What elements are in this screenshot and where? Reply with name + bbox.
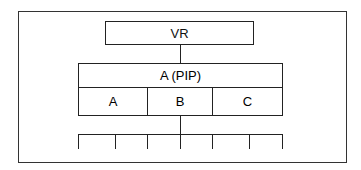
vr-label: VR [170, 26, 188, 41]
connector-pip-bus [180, 116, 181, 134]
part-a: A [79, 88, 148, 115]
pip-node: A (PIP) A B C [78, 63, 283, 116]
leaf-line [212, 134, 213, 149]
part-c: C [213, 88, 282, 115]
vr-node: VR [105, 21, 254, 45]
leaf-line [115, 134, 116, 149]
part-b: B [148, 88, 213, 115]
leaf-line [180, 134, 181, 149]
connector-vr-pip [180, 45, 181, 63]
pip-title: A (PIP) [79, 64, 282, 88]
leaf-line [78, 134, 79, 149]
leaf-line [282, 134, 283, 149]
leaf-line [147, 134, 148, 149]
leaf-line [249, 134, 250, 149]
